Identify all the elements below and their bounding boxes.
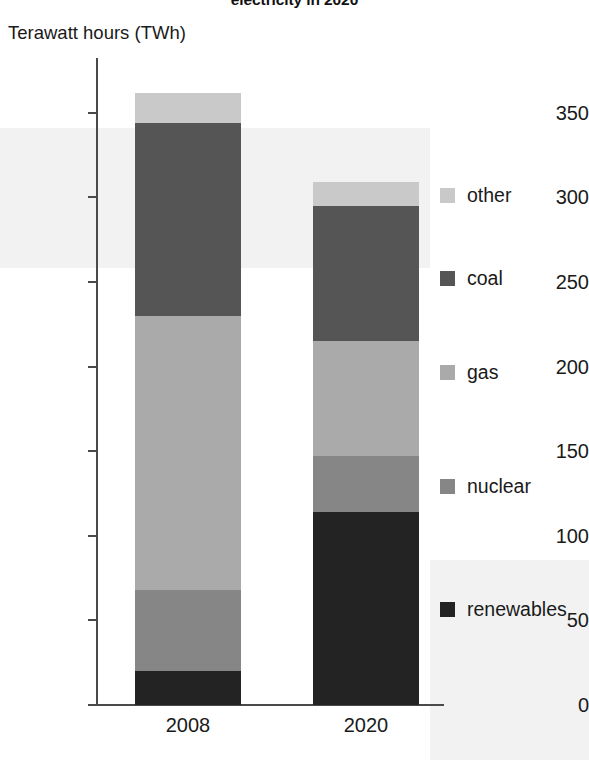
bar-segment-coal-2008 — [135, 123, 241, 316]
y-axis-line — [96, 58, 98, 706]
y-tick-mark — [88, 619, 97, 621]
bar-segment-nuclear-2020 — [313, 456, 419, 512]
legend-swatch-icon — [440, 479, 455, 494]
y-tick-mark — [88, 450, 97, 452]
bar-segment-nuclear-2008 — [135, 590, 241, 671]
chart-figure: electricity in 2020 Terawatt hours (TWh)… — [0, 0, 589, 765]
bar-segment-renewables-2008 — [135, 671, 241, 705]
legend-label: gas — [467, 363, 498, 383]
legend-item-nuclear[interactable]: nuclear — [440, 477, 531, 497]
legend-swatch-icon — [440, 602, 455, 617]
bar-segment-gas-2008 — [135, 316, 241, 590]
chart-legend: othercoalgasnuclearrenewables — [440, 0, 589, 765]
bar-segment-renewables-2020 — [313, 512, 419, 705]
y-tick-mark — [88, 535, 97, 537]
legend-swatch-icon — [440, 188, 455, 203]
bar-segment-gas-2020 — [313, 341, 419, 456]
legend-item-coal[interactable]: coal — [440, 269, 503, 289]
bar-segment-other-2008 — [135, 93, 241, 123]
bar-segment-other-2020 — [313, 182, 419, 206]
y-tick-mark — [88, 196, 97, 198]
y-tick-mark — [88, 704, 97, 706]
legend-item-other[interactable]: other — [440, 186, 511, 206]
x-tick-label-2008: 2008 — [108, 714, 268, 737]
legend-label: renewables — [467, 600, 567, 620]
legend-item-gas[interactable]: gas — [440, 363, 498, 383]
y-tick-mark — [88, 112, 97, 114]
legend-item-renewables[interactable]: renewables — [440, 600, 567, 620]
legend-label: other — [467, 186, 511, 206]
y-tick-mark — [88, 366, 97, 368]
x-tick-label-2020: 2020 — [286, 714, 446, 737]
legend-swatch-icon — [440, 365, 455, 380]
legend-label: nuclear — [467, 477, 531, 497]
legend-label: coal — [467, 269, 503, 289]
legend-swatch-icon — [440, 271, 455, 286]
y-tick-mark — [88, 281, 97, 283]
bar-segment-coal-2020 — [313, 206, 419, 341]
